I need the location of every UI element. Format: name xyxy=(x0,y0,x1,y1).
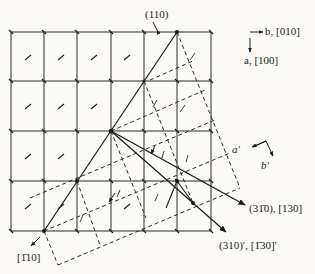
arrow-1bar10 xyxy=(31,237,40,246)
label-b-axis: b, [010] xyxy=(265,26,300,37)
label-a-axis: a, [100] xyxy=(244,55,278,66)
twin-lattice-diagram: (110) b, [010] a, [100] a′ b′ [1̄10] (31… xyxy=(0,0,315,274)
label-b-prime: b′ xyxy=(261,160,269,171)
label-1bar10: [1̄10] xyxy=(17,252,40,263)
primed-axes-arrow xyxy=(253,141,273,156)
label-310bar: (31̄0), [130] xyxy=(249,203,302,214)
twin-lattice-dashed xyxy=(30,32,240,265)
arrow-310bar xyxy=(111,131,245,205)
label-a-prime: a′ xyxy=(232,144,240,155)
label-310prime: (310)′, [1̄30]′ xyxy=(219,240,277,251)
lattice-svg xyxy=(0,0,315,274)
label-110: (110) xyxy=(145,9,168,20)
